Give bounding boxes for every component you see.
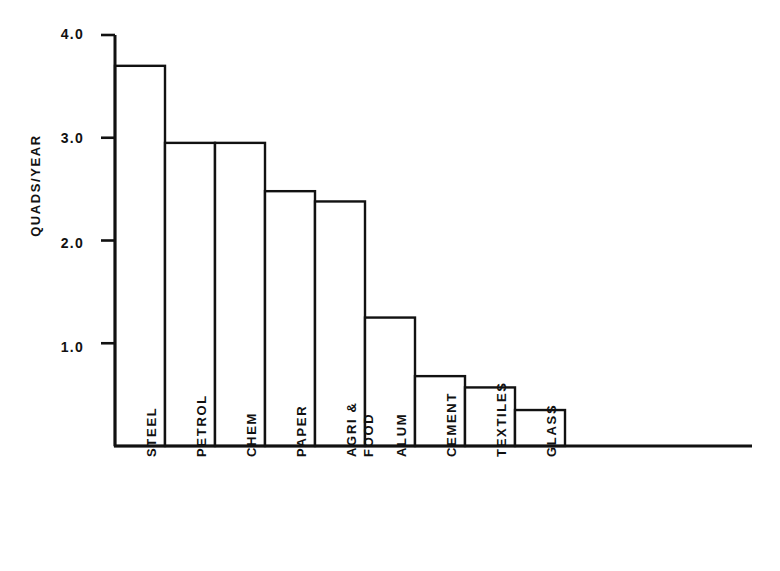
x-category-label: CEMENT (445, 392, 458, 457)
x-category-label: AGRI & (345, 401, 358, 457)
bar-chart: QUADS/YEAR 4.0 3.0 2.0 1.0 STEELPETROLCH… (0, 0, 780, 571)
x-category-label: PETROL (195, 394, 208, 457)
x-category-label: ALUM (395, 413, 408, 457)
x-category-label: CHEM (245, 412, 258, 457)
bar-chem (215, 143, 265, 446)
bar-steel (115, 66, 165, 446)
plot-area (0, 0, 780, 571)
x-category-label: TEXTILES (495, 381, 508, 457)
x-category-label: FOOD (362, 413, 375, 457)
x-category-label: STEEL (145, 407, 158, 457)
x-category-label: GLASS (545, 404, 558, 457)
x-category-label: PAPER (295, 405, 308, 457)
